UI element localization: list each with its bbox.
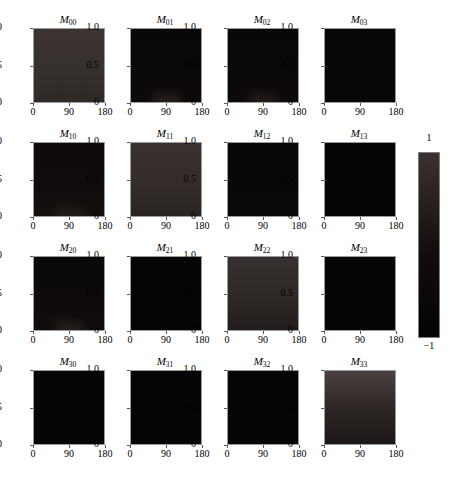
x-tick-mark xyxy=(396,445,397,448)
x-tick-mark xyxy=(324,445,325,448)
y-tick-mark xyxy=(127,256,130,257)
panel-title-base: M xyxy=(60,13,69,25)
heatmap-noise xyxy=(325,371,395,444)
x-tick-mark xyxy=(33,217,34,220)
panel-title-subscript: 31 xyxy=(166,360,174,369)
y-tick-label: 0.5 xyxy=(281,59,294,70)
y-tick-label: 0 xyxy=(288,438,293,449)
y-tick-label: 1.0 xyxy=(87,135,100,146)
y-tick-mark xyxy=(224,370,227,371)
x-tick-mark xyxy=(360,103,361,106)
y-tick-mark xyxy=(127,66,130,67)
x-tick-mark xyxy=(263,445,264,448)
x-tick-label: 90 xyxy=(161,448,171,459)
panel-title-subscript: 02 xyxy=(263,18,271,27)
heatmap-m03 xyxy=(324,28,396,103)
y-tick-label: 1.0 xyxy=(0,135,2,146)
panel-title-subscript: 00 xyxy=(69,18,77,27)
panel-title-subscript: 32 xyxy=(263,360,271,369)
heatmap-noise xyxy=(325,257,395,330)
x-tick-mark xyxy=(130,445,131,448)
y-tick-label: 1.0 xyxy=(184,21,197,32)
y-tick-label: 0.5 xyxy=(0,287,2,298)
x-tick-label: 90 xyxy=(258,334,268,345)
y-tick-label: 1.0 xyxy=(0,363,2,374)
panel-title-m13: M13 xyxy=(321,126,397,140)
y-tick-mark xyxy=(321,408,324,409)
x-tick-label: 90 xyxy=(355,448,365,459)
x-tick-mark xyxy=(324,331,325,334)
heatmap-m13 xyxy=(324,142,396,217)
y-tick-label: 0 xyxy=(0,438,2,449)
x-tick-label: 90 xyxy=(355,334,365,345)
x-tick-label: 0 xyxy=(322,448,327,459)
x-tick-mark xyxy=(130,331,131,334)
panel-title-subscript: 20 xyxy=(69,246,77,255)
y-tick-label: 0.5 xyxy=(0,401,2,412)
panel-title-subscript: 12 xyxy=(263,132,271,141)
x-tick-label: 0 xyxy=(31,106,36,117)
y-tick-mark xyxy=(321,180,324,181)
heatmap-noise xyxy=(325,143,395,216)
panel-title-base: M xyxy=(254,355,263,367)
y-tick-label: 0 xyxy=(94,96,99,107)
x-tick-mark xyxy=(166,445,167,448)
y-tick-label: 0 xyxy=(191,96,196,107)
x-tick-label: 0 xyxy=(322,220,327,231)
y-tick-mark xyxy=(30,294,33,295)
colorbar-max-label: 1 xyxy=(418,132,440,143)
x-tick-mark xyxy=(396,103,397,106)
x-tick-label: 0 xyxy=(31,220,36,231)
x-tick-label: 90 xyxy=(64,106,74,117)
x-tick-label: 90 xyxy=(161,220,171,231)
y-tick-mark xyxy=(30,142,33,143)
x-tick-mark xyxy=(69,445,70,448)
y-tick-mark xyxy=(30,256,33,257)
x-tick-label: 0 xyxy=(225,448,230,459)
x-tick-mark xyxy=(130,103,131,106)
x-tick-label: 0 xyxy=(322,334,327,345)
y-tick-label: 0.5 xyxy=(87,287,100,298)
heatmap-m23 xyxy=(324,256,396,331)
panel-title-base: M xyxy=(351,13,360,25)
panel-title-subscript: 10 xyxy=(69,132,77,141)
x-tick-mark xyxy=(33,331,34,334)
y-tick-label: 1.0 xyxy=(184,249,197,260)
y-tick-mark xyxy=(224,28,227,29)
x-tick-mark xyxy=(263,217,264,220)
y-tick-label: 0 xyxy=(191,324,196,335)
y-tick-label: 0 xyxy=(0,324,2,335)
y-tick-label: 0.5 xyxy=(184,401,197,412)
panel-title-subscript: 23 xyxy=(360,246,368,255)
y-tick-label: 0 xyxy=(0,96,2,107)
y-tick-label: 1.0 xyxy=(281,249,294,260)
panel-title-subscript: 33 xyxy=(360,360,368,369)
y-tick-label: 0.5 xyxy=(0,173,2,184)
panel-m03: M031.00.50090180 xyxy=(299,12,397,122)
y-tick-label: 0.5 xyxy=(87,173,100,184)
panel-title-base: M xyxy=(351,127,360,139)
x-tick-label: 90 xyxy=(258,220,268,231)
x-tick-label: 90 xyxy=(64,334,74,345)
x-tick-label: 90 xyxy=(64,220,74,231)
x-tick-mark xyxy=(69,331,70,334)
y-tick-mark xyxy=(321,66,324,67)
heatmap-m33 xyxy=(324,370,396,445)
x-tick-mark xyxy=(130,217,131,220)
y-tick-label: 0 xyxy=(94,438,99,449)
panel-title-base: M xyxy=(157,127,166,139)
y-tick-mark xyxy=(321,370,324,371)
x-tick-mark xyxy=(360,331,361,334)
x-tick-mark xyxy=(360,217,361,220)
x-tick-mark xyxy=(69,103,70,106)
y-tick-mark xyxy=(321,142,324,143)
panel-title-base: M xyxy=(351,241,360,253)
x-tick-label: 180 xyxy=(389,220,404,231)
y-tick-label: 0 xyxy=(94,210,99,221)
y-tick-mark xyxy=(321,28,324,29)
colorbar-gradient xyxy=(418,152,440,338)
panel-title-subscript: 01 xyxy=(166,18,174,27)
x-tick-label: 0 xyxy=(225,220,230,231)
x-tick-mark xyxy=(227,103,228,106)
panel-title-m33: M33 xyxy=(321,354,397,368)
